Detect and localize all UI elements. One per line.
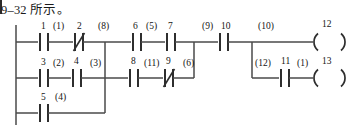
contact-2-label: 2 — [77, 21, 82, 31]
branch-label-8: (8) — [98, 21, 109, 31]
contact-9[interactable] — [164, 69, 175, 87]
contact-4-label: 4 — [74, 56, 79, 66]
branch-label-5: (5) — [146, 21, 157, 31]
coil-12-right-paren — [341, 34, 345, 51]
contact-3[interactable] — [40, 69, 48, 87]
branch-label-4: (4) — [55, 92, 66, 102]
branch-label-6: (11) — [144, 58, 159, 68]
contact-5[interactable] — [40, 104, 48, 122]
contact-9-label: 9 — [166, 56, 171, 66]
contact-11-label: 11 — [281, 56, 290, 66]
contact-7-label: 7 — [168, 21, 173, 31]
contact-8[interactable] — [130, 69, 138, 87]
contact-5-label: 5 — [41, 92, 46, 102]
contact-1-label: 1 — [41, 21, 46, 31]
ladder-diagram-page: 9–32 所示。 — [0, 0, 350, 131]
contact-3-annotation: (2) — [53, 58, 64, 68]
coil-13-right-paren — [341, 70, 345, 87]
contact-10-label: 10 — [221, 21, 231, 31]
branch-label-7: (6) — [183, 58, 194, 68]
branch-label-9: (9) — [202, 21, 213, 31]
coil-12-label: 12 — [322, 19, 332, 29]
contact-2[interactable] — [74, 33, 85, 51]
contact-7[interactable] — [167, 33, 175, 51]
contact-11[interactable] — [281, 69, 289, 87]
coil-13-left-paren — [314, 70, 318, 87]
coil-13[interactable] — [314, 70, 345, 87]
coil-13-label: 13 — [322, 56, 332, 66]
contact-6-label: 6 — [133, 21, 138, 31]
contact-8-label: 8 — [131, 56, 136, 66]
branch-label-11: (12) — [255, 58, 271, 68]
branch-label-12: (1) — [297, 58, 308, 68]
contact-6[interactable] — [133, 33, 141, 51]
coil-12[interactable] — [314, 34, 345, 51]
contact-1[interactable] — [40, 33, 48, 51]
branch-label-3: (3) — [90, 58, 101, 68]
branch-label-10: (10) — [258, 21, 274, 31]
contact-4[interactable] — [73, 69, 81, 87]
contact-1-annotation: (1) — [53, 21, 64, 31]
coil-12-left-paren — [314, 34, 318, 51]
contact-3-label: 3 — [41, 57, 46, 67]
contact-10[interactable] — [220, 33, 228, 51]
